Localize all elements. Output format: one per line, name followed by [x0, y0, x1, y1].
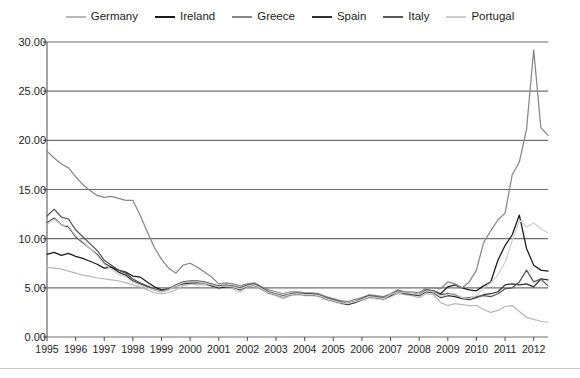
- x-axis-tick-label: 2009: [436, 344, 459, 355]
- plot-area: 0.005.0010.0015.0020.0025.0030.00 199519…: [0, 0, 580, 378]
- y-axis-tick-label: 0.00: [6, 332, 46, 343]
- y-axis-tick-label: 5.00: [6, 282, 46, 293]
- x-axis-tick-label: 1996: [64, 344, 87, 355]
- plot-svg: [0, 0, 580, 378]
- x-axis-tick-label: 2003: [264, 344, 287, 355]
- footer-divider: [0, 368, 580, 369]
- x-axis-tick-label: 2012: [522, 344, 545, 355]
- x-axis-tick-label: 2004: [293, 344, 316, 355]
- y-axis-tick-label: 25.00: [6, 86, 46, 97]
- series-line-ireland: [47, 215, 548, 304]
- x-axis-tick-label: 2006: [350, 344, 373, 355]
- y-axis-tick-label: 20.00: [6, 135, 46, 146]
- y-axis-tick-label: 30.00: [6, 37, 46, 48]
- x-axis-tick-label: 2000: [178, 344, 201, 355]
- chart-container: GermanyIrelandGreeceSpainItalyPortugal 0…: [0, 0, 580, 378]
- x-axis-tick-label: 1995: [35, 344, 58, 355]
- x-axis-tick-label: 1997: [93, 344, 116, 355]
- series-line-greece: [47, 50, 548, 302]
- y-axis-tick-label: 15.00: [6, 184, 46, 195]
- y-axis-tick-label: 10.00: [6, 233, 46, 244]
- x-axis-tick-label: 1999: [150, 344, 173, 355]
- x-axis-tick-label: 2002: [236, 344, 259, 355]
- x-axis-tick-label: 2008: [407, 344, 430, 355]
- x-axis-tick-label: 2007: [379, 344, 402, 355]
- series-line-italy: [47, 209, 548, 303]
- x-axis-tick-label: 2001: [207, 344, 230, 355]
- x-axis-tick-label: 1998: [121, 344, 144, 355]
- x-axis-tick-label: 2005: [322, 344, 345, 355]
- y-axis-labels: 0.005.0010.0015.0020.0025.0030.00: [0, 0, 46, 378]
- x-axis-labels: 1995199619971998199920002001200220032004…: [0, 344, 580, 362]
- x-axis-tick-label: 2010: [465, 344, 488, 355]
- x-axis-tick-label: 2011: [494, 344, 517, 355]
